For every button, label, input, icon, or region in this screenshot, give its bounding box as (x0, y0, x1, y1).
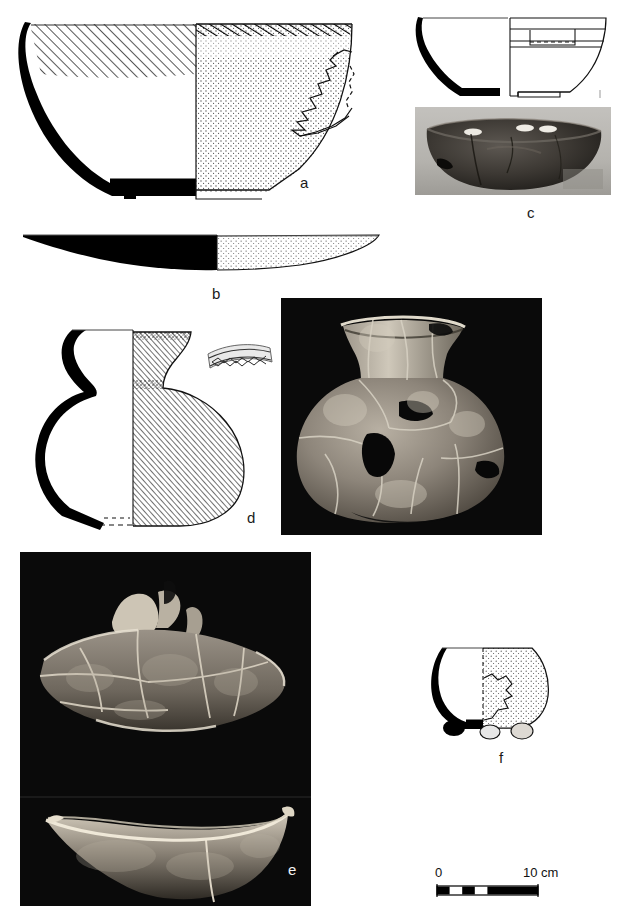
panel-f-profile-drawing: f (420, 630, 595, 775)
panel-label-c: c (527, 205, 535, 220)
panel-f-foot-section (443, 720, 465, 736)
panel-c-museum-label-2 (516, 125, 534, 132)
panel-c-section-fill (416, 17, 500, 96)
panel-label-e: e (288, 862, 296, 877)
scale-bar-start-label: 0 (435, 865, 442, 880)
panel-a-interior-hatch (25, 18, 205, 88)
panel-f-exterior-stipple (478, 642, 558, 734)
scale-bar-segment-3 (487, 887, 538, 895)
panel-d-photograph (281, 298, 542, 535)
scale-bar: 0 10 cm (430, 862, 630, 906)
panel-c-base-section (460, 88, 500, 96)
panel-label-a: a (300, 175, 308, 190)
panel-c-panel-detail (530, 29, 575, 45)
scale-bar-segment-2 (462, 887, 475, 895)
panel-c-profile-drawing (410, 8, 643, 103)
panel-d-decorated-sherd-detail (208, 345, 272, 368)
scale-bar-end-label: 10 cm (523, 865, 558, 880)
panel-a-profile-drawing: a (0, 0, 370, 215)
panel-label-d: d (247, 510, 255, 525)
panel-c-foot-outline (518, 92, 560, 97)
panel-f-section-fill (431, 648, 483, 729)
panel-b-profile-drawing: b (0, 215, 400, 295)
scale-bar-segment-1 (437, 887, 450, 895)
panel-d-rim-decoration-band (125, 332, 195, 340)
panel-b-section-fill (23, 235, 217, 270)
panel-c-background-shadow (563, 169, 603, 189)
panel-c-photograph (415, 107, 611, 195)
panel-c-museum-label-3 (539, 126, 557, 133)
panel-a-foot-nub (124, 191, 136, 199)
panel-f-foot-2 (511, 723, 533, 739)
panel-f-foot-1 (480, 725, 500, 739)
panel-d-profile-drawing: d (0, 292, 285, 542)
figure-plate: a b (0, 0, 643, 922)
panel-c-museum-label-1 (464, 129, 482, 136)
panel-d-section-fill (35, 330, 104, 530)
panel-e-photograph: e (20, 552, 311, 906)
panel-c-exterior-contour (510, 18, 606, 96)
panel-label-f: f (499, 750, 503, 765)
